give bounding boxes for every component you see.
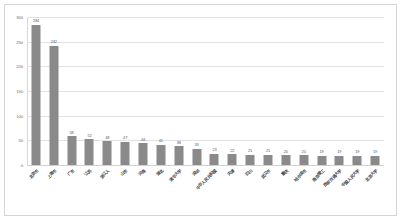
bar[interactable] [103,141,112,165]
bar[interactable] [246,155,255,165]
x-axis-label-slot: 上海市 [45,167,63,213]
bar-value-label: 33 [194,142,198,147]
x-axis-label-slot: 哈尔滨市 [295,167,313,213]
x-axis-label-slot: 四川 [241,167,259,213]
bar-value-label: 48 [105,135,109,140]
bar-value-label: 20 [302,149,306,154]
x-axis-tick-label: 北京大学 [364,168,379,183]
bar-value-label: 21 [266,148,270,153]
y-axis-tick-label: 300 [16,15,23,20]
bar-slot: 19 [330,17,348,165]
x-axis-tick-label: 哈尔滨市 [293,168,308,183]
gridline [27,165,384,166]
bar-value-label: 19 [319,149,323,154]
x-axis-tick-label: 四川 [245,168,254,177]
bars-layer: 2842425852484744413833232221212020191919… [27,17,384,165]
x-axis-label-slot: 武汉市 [259,167,277,213]
x-axis-label-slot: 中华人民共和国 [206,167,224,213]
bar[interactable] [210,154,219,165]
bar-value-label: 52 [87,133,91,138]
bar[interactable] [85,139,94,165]
bar-slot: 38 [170,17,188,165]
x-axis-label-slot: 重庆 [277,167,295,213]
bar-value-label: 22 [230,148,234,153]
x-axis-label-slot: 北京市 [27,167,45,213]
bar-value-label: 242 [51,39,57,44]
bar[interactable] [121,142,130,165]
bar-slot: 33 [188,17,206,165]
x-axis-tick-label: 天津 [227,168,236,177]
y-axis-tick-label: 50 [19,138,23,143]
bar-value-label: 19 [373,149,377,154]
y-axis-tick-label: 250 [16,39,23,44]
bar[interactable] [335,156,344,165]
x-axis-tick-label: 广东 [66,168,75,177]
x-axis-tick-label: 重庆 [280,168,289,177]
bar[interactable] [49,46,58,165]
x-axis-label-slot: 河南 [134,167,152,213]
bar-slot: 52 [81,17,99,165]
bar[interactable] [281,155,290,165]
x-axis-label-slot: 天津 [223,167,241,213]
bar[interactable] [371,156,380,165]
bar-value-label: 21 [248,148,252,153]
y-axis-tick-label: 0 [21,163,23,168]
y-axis: 050100150200250300 [5,17,25,165]
bar-slot: 41 [152,17,170,165]
bar-slot: 23 [206,17,224,165]
bar-value-label: 44 [141,137,145,142]
bar-slot: 21 [241,17,259,165]
x-axis-tick-label: 山东 [120,168,129,177]
x-axis-label-slot: 江苏 [81,167,99,213]
x-axis-label-slot: 浙江人 [98,167,116,213]
x-axis-label-slot: 广东 [63,167,81,213]
bar-value-label: 284 [33,18,39,23]
bar-slot: 284 [27,17,45,165]
bar[interactable] [67,136,76,165]
x-axis-label-slot: 清华大学 [170,167,188,213]
bar[interactable] [353,156,362,165]
bar[interactable] [31,25,40,165]
bar-slot: 19 [348,17,366,165]
y-axis-tick-label: 100 [16,113,23,118]
bar[interactable] [139,143,148,165]
bar[interactable] [156,145,165,165]
bar[interactable] [174,146,183,165]
bar[interactable] [228,154,237,165]
x-axis-tick-label: 深圳 [191,168,200,177]
bar[interactable] [317,156,326,165]
x-axis-label-slot: 中国人民大学 [348,167,366,213]
x-axis-tick-label: 湖北 [155,168,164,177]
bar-value-label: 20 [284,149,288,154]
bar-slot: 47 [116,17,134,165]
x-axis-label-slot: 南京理工 [313,167,331,213]
bar-value-label: 58 [70,130,74,135]
bar-slot: 48 [98,17,116,165]
bar[interactable] [263,155,272,165]
x-axis-tick-label: 江苏 [84,168,93,177]
bar-slot: 19 [366,17,384,165]
bar-slot: 20 [277,17,295,165]
bar-slot: 44 [134,17,152,165]
bar[interactable] [299,155,308,165]
x-axis-label-slot: 西安交通大学 [330,167,348,213]
y-axis-tick-label: 200 [16,64,23,69]
x-axis-tick-label: 河南 [137,168,146,177]
x-axis-tick-label: 武汉市 [260,168,272,180]
y-axis-tick-label: 150 [16,89,23,94]
x-axis-tick-label: 北京市 [28,168,40,180]
bar-value-label: 47 [123,135,127,140]
bar-value-label: 41 [159,138,163,143]
bar-slot: 22 [223,17,241,165]
chart-frame: 050100150200250300 284242585248474441383… [4,4,397,216]
x-axis-label-slot: 湖北 [152,167,170,213]
bar-slot: 242 [45,17,63,165]
bar[interactable] [192,149,201,165]
bar-value-label: 23 [212,147,216,152]
bar-slot: 21 [259,17,277,165]
x-axis-label-slot: 北京大学 [366,167,384,213]
bar-slot: 20 [295,17,313,165]
x-axis-label-slot: 山东 [116,167,134,213]
x-axis-tick-label: 浙江人 [99,168,111,180]
x-axis-labels: 北京市上海市广东江苏浙江人山东河南湖北清华大学深圳中华人民共和国天津四川武汉市重… [27,167,384,213]
